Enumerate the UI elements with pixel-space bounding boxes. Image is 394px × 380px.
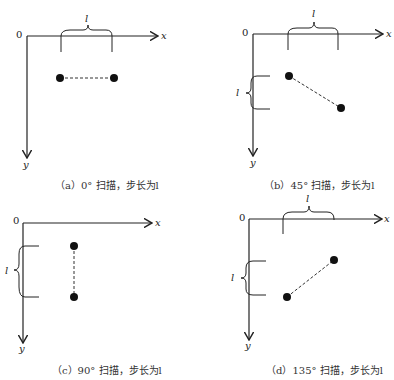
svg-text:x: x [384,213,390,224]
caption-d: （d）135° 扫描，步长为l [266,362,383,377]
svg-text:l: l [85,13,88,24]
caption-a: （a）0° 扫描，步长为l [55,177,159,192]
svg-text:y: y [22,159,29,170]
svg-text:0: 0 [13,215,19,226]
caption-b: （b）45° 扫描，步长为l [264,177,375,192]
svg-text:y: y [244,340,251,351]
svg-text:0: 0 [16,29,22,40]
svg-text:0: 0 [239,212,245,223]
svg-text:l: l [231,272,234,283]
svg-text:0: 0 [242,27,248,38]
svg-text:y: y [249,157,256,168]
svg-text:y: y [18,343,25,354]
svg-text:x: x [386,28,392,39]
panel-d: 0 x y l l [231,193,390,351]
svg-text:x: x [155,217,161,228]
panel-b: 0 x y l l [236,8,392,168]
svg-text:l: l [306,193,309,204]
svg-text:l: l [5,265,8,276]
caption-c: （c）90° 扫描，步长为l [52,362,162,377]
panel-a: 0 x y l [16,13,167,170]
panel-c: 0 x y l [5,215,161,354]
svg-text:l: l [236,87,239,98]
svg-text:l: l [312,8,315,19]
svg-text:x: x [161,30,167,41]
